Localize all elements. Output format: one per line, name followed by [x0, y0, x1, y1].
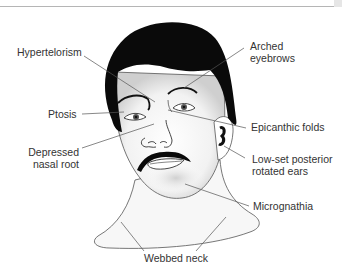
label-depressed-nasal-root-line1: Depressed: [26, 146, 79, 158]
label-ptosis: Ptosis: [48, 108, 77, 120]
label-arched-eyebrows-line1: Arched: [250, 40, 295, 52]
label-hypertelorism: Hypertelorism: [17, 46, 82, 58]
label-epicanthic-folds: Epicanthic folds: [251, 121, 325, 133]
label-arched-eyebrows: Arched eyebrows: [250, 40, 295, 64]
label-depressed-nasal-root: Depressed nasal root: [26, 146, 79, 170]
label-low-set-ears-line1: Low-set posterior: [252, 153, 333, 165]
label-webbed-neck: Webbed neck: [144, 252, 208, 264]
label-arched-eyebrows-line2: eyebrows: [250, 52, 295, 64]
label-depressed-nasal-root-line2: nasal root: [26, 158, 79, 170]
label-micrognathia: Micrognathia: [253, 200, 313, 212]
label-low-set-ears: Low-set posterior rotated ears: [252, 153, 333, 177]
label-low-set-ears-line2: rotated ears: [252, 165, 333, 177]
